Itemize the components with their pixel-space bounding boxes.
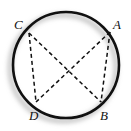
circle-outline (13, 12, 119, 118)
circle-geometry-figure: A B C D (0, 0, 131, 131)
chord-c-d (29, 33, 36, 102)
vertex-label-c: C (14, 18, 23, 31)
vertex-label-a: A (113, 18, 121, 31)
vertex-label-d: D (29, 109, 38, 122)
vertex-label-b: B (100, 109, 108, 122)
chord-a-d (36, 32, 110, 102)
chord-c-b (29, 33, 101, 102)
